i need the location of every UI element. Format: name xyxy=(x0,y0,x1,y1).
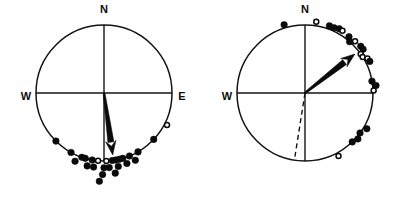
cardinal-labels-right: NW xyxy=(222,3,309,102)
data-point xyxy=(371,88,376,93)
data-point xyxy=(364,125,371,132)
data-point xyxy=(353,39,358,44)
cardinal-label-n-right: N xyxy=(301,3,309,15)
data-point xyxy=(109,157,116,164)
circular-diagram-canvas: NWE NW xyxy=(0,0,398,199)
cardinal-label-w-right: W xyxy=(222,90,233,102)
dashed-vector-right xyxy=(295,93,305,158)
mean-vector-shaft xyxy=(304,60,346,94)
cardinal-label-n-left: N xyxy=(100,3,108,15)
data-point xyxy=(126,153,133,160)
data-points-right xyxy=(281,19,379,158)
mean-vector-shaft xyxy=(103,93,114,143)
data-point xyxy=(101,165,108,172)
data-point xyxy=(104,158,109,163)
data-point xyxy=(112,170,119,177)
data-point xyxy=(79,154,86,161)
dashed-vector-line xyxy=(295,93,305,158)
data-point xyxy=(68,149,75,156)
data-point xyxy=(96,178,103,185)
data-point xyxy=(135,149,142,156)
data-point xyxy=(336,154,341,159)
data-point xyxy=(53,138,60,145)
cardinal-label-w-left: W xyxy=(21,90,32,102)
data-point xyxy=(366,58,373,65)
data-point xyxy=(99,171,106,178)
data-point xyxy=(90,164,97,171)
figure-root: NWE NW xyxy=(0,0,398,199)
data-point xyxy=(84,163,91,170)
data-point xyxy=(314,19,319,24)
data-point xyxy=(89,157,96,164)
data-point xyxy=(357,130,364,137)
data-point xyxy=(349,139,356,146)
panel-right: NW xyxy=(222,3,380,161)
data-point xyxy=(96,158,101,163)
mean-vector-arrowhead xyxy=(106,140,116,155)
data-point xyxy=(115,163,122,170)
data-point xyxy=(132,157,139,164)
data-point xyxy=(150,136,157,143)
mean-vector-arrow-left xyxy=(103,93,116,155)
data-point xyxy=(340,28,345,33)
data-point xyxy=(281,21,288,28)
data-point xyxy=(72,158,79,165)
mean-vector-arrow-right xyxy=(304,54,354,94)
data-point xyxy=(165,123,170,128)
cardinal-label-e-left: E xyxy=(178,90,185,102)
panel-left: NWE xyxy=(21,3,186,185)
cardinal-labels-left: NWE xyxy=(21,3,186,102)
